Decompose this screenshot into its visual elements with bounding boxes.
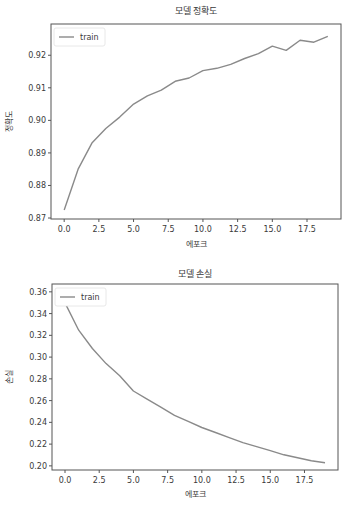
legend: train bbox=[54, 28, 105, 46]
x-tick-label: 12.5 bbox=[227, 476, 245, 485]
chart-title: 모델 손실 bbox=[178, 268, 213, 279]
legend-label: train bbox=[80, 33, 99, 42]
y-tick-label: 0.89 bbox=[28, 149, 46, 158]
x-axis-label: 에포크 bbox=[185, 490, 206, 499]
plot-area: 0.02.55.07.510.012.515.017.50.200.220.24… bbox=[29, 284, 338, 485]
x-tick-label: 15.0 bbox=[261, 476, 279, 485]
x-tick-label: 5.0 bbox=[127, 476, 140, 485]
chart-title: 모델 정확도 bbox=[175, 5, 218, 16]
x-tick-label: 2.5 bbox=[93, 225, 106, 234]
legend: train bbox=[55, 288, 106, 306]
x-tick-label: 17.5 bbox=[296, 476, 314, 485]
x-tick-label: 17.5 bbox=[298, 225, 316, 234]
y-tick-label: 0.87 bbox=[28, 214, 46, 223]
x-tick-label: 7.5 bbox=[162, 225, 175, 234]
y-tick-label: 0.88 bbox=[28, 181, 46, 190]
y-tick-label: 0.28 bbox=[29, 375, 47, 384]
x-tick-label: 0.0 bbox=[59, 476, 72, 485]
x-tick-label: 10.0 bbox=[193, 476, 211, 485]
loss-chart: 모델 손실 0.02.55.07.510.012.515.017.50.200.… bbox=[0, 262, 349, 511]
y-tick-label: 0.90 bbox=[28, 116, 46, 125]
x-tick-label: 5.0 bbox=[127, 225, 140, 234]
x-tick-label: 12.5 bbox=[229, 225, 247, 234]
y-tick-label: 0.32 bbox=[29, 331, 47, 340]
y-tick-label: 0.91 bbox=[28, 84, 46, 93]
plot-frame bbox=[52, 284, 338, 470]
x-tick-label: 2.5 bbox=[93, 476, 106, 485]
accuracy-chart: 모델 정확도 0.02.55.07.510.012.515.017.50.870… bbox=[0, 0, 349, 255]
y-tick-label: 0.30 bbox=[29, 353, 47, 362]
plot-frame bbox=[51, 24, 341, 219]
y-tick-label: 0.34 bbox=[29, 310, 47, 319]
x-tick-label: 0.0 bbox=[58, 225, 71, 234]
legend-label: train bbox=[81, 293, 100, 302]
x-tick-label: 10.0 bbox=[194, 225, 212, 234]
x-tick-label: 7.5 bbox=[161, 476, 174, 485]
loss-chart-svg: 모델 손실 0.02.55.07.510.012.515.017.50.200.… bbox=[0, 262, 349, 511]
plot-area: 0.02.55.07.510.012.515.017.50.870.880.89… bbox=[28, 24, 341, 234]
y-axis-label: 손실 bbox=[4, 370, 14, 384]
y-tick-label: 0.36 bbox=[29, 288, 47, 297]
y-axis-label: 정확도 bbox=[4, 111, 14, 132]
y-tick-label: 0.22 bbox=[29, 440, 47, 449]
y-tick-label: 0.24 bbox=[29, 418, 47, 427]
accuracy-chart-svg: 모델 정확도 0.02.55.07.510.012.515.017.50.870… bbox=[0, 0, 349, 255]
y-tick-label: 0.20 bbox=[29, 462, 47, 471]
x-axis-label: 에포크 bbox=[186, 240, 207, 249]
series-line-train bbox=[64, 36, 328, 210]
y-tick-label: 0.92 bbox=[28, 51, 46, 60]
x-tick-label: 15.0 bbox=[263, 225, 281, 234]
y-tick-label: 0.26 bbox=[29, 397, 47, 406]
series-line-train bbox=[65, 303, 325, 463]
